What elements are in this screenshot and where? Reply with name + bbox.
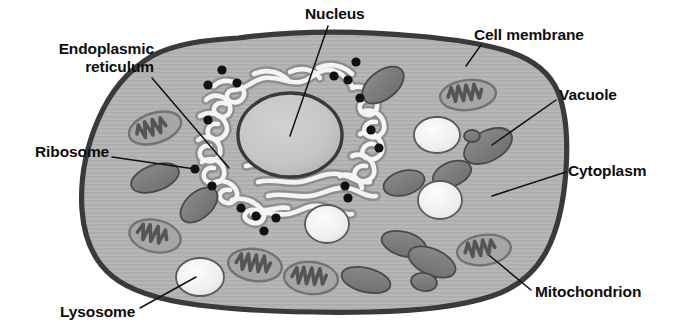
ribosome bbox=[366, 125, 375, 134]
lysosome bbox=[176, 258, 224, 296]
label-endoplasmic-reticulum: Endoplasmic reticulum bbox=[36, 40, 154, 75]
label-cell-membrane: Cell membrane bbox=[474, 26, 584, 44]
ribosome bbox=[232, 78, 241, 87]
ribosome bbox=[340, 181, 349, 190]
ribosome bbox=[203, 115, 212, 124]
label-lysosome: Lysosome bbox=[60, 303, 135, 321]
label-nucleus: Nucleus bbox=[305, 5, 365, 23]
label-ribosome: Ribosome bbox=[35, 143, 109, 161]
lysosome bbox=[414, 117, 460, 153]
ribosome bbox=[351, 57, 360, 66]
ribosome bbox=[355, 93, 364, 102]
ribosome bbox=[251, 211, 260, 220]
lysosome bbox=[305, 205, 349, 243]
cell-diagram-stage: Nucleus Cell membrane Endoplasmic reticu… bbox=[0, 0, 677, 336]
ribosome bbox=[203, 80, 212, 89]
lysosome bbox=[418, 181, 462, 219]
label-cytoplasm: Cytoplasm bbox=[568, 162, 646, 180]
ribosome bbox=[217, 65, 226, 74]
ribosome bbox=[207, 181, 216, 190]
label-mitochondrion: Mitochondrion bbox=[535, 283, 641, 301]
ribosome bbox=[259, 226, 268, 235]
ribosome bbox=[343, 193, 352, 202]
vacuole bbox=[464, 130, 480, 142]
ribosome bbox=[236, 203, 245, 212]
label-vacuole: Vacuole bbox=[559, 86, 617, 104]
ribosome bbox=[271, 213, 280, 222]
ribosome bbox=[343, 75, 352, 84]
ribosome bbox=[374, 143, 383, 152]
ribosome bbox=[329, 71, 338, 80]
